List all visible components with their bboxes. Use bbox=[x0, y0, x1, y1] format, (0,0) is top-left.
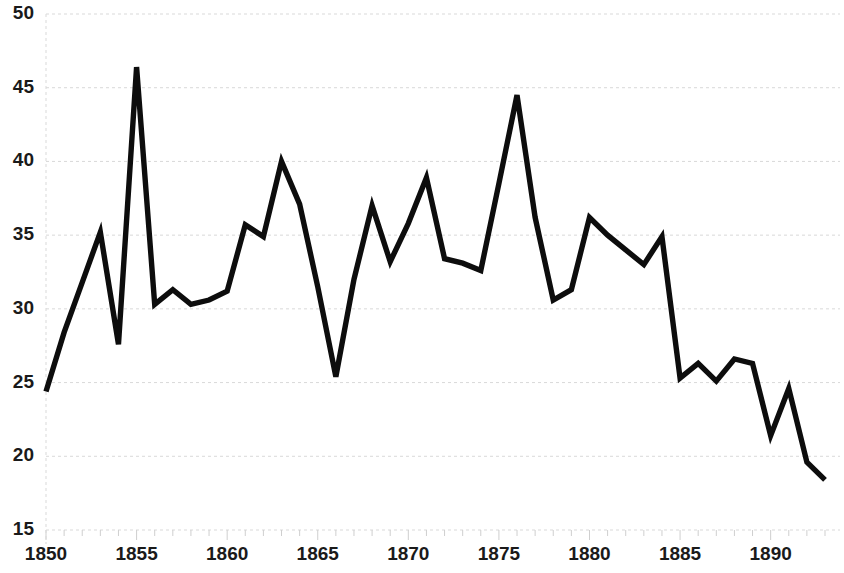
x-tick-label: 1890 bbox=[750, 543, 792, 564]
x-tick-label: 1850 bbox=[25, 543, 67, 564]
y-tick-label: 50 bbox=[13, 2, 34, 23]
y-tick-label: 45 bbox=[13, 76, 35, 97]
y-tick-label: 30 bbox=[13, 297, 34, 318]
x-tick-label: 1885 bbox=[659, 543, 702, 564]
gridlines bbox=[46, 14, 840, 530]
data-series bbox=[46, 67, 825, 480]
chart-container: 1520253035404550 18501855186018651870187… bbox=[0, 0, 844, 573]
x-tick-label: 1860 bbox=[206, 543, 248, 564]
x-tick-label: 1880 bbox=[568, 543, 610, 564]
y-tick-label: 20 bbox=[13, 444, 34, 465]
x-tick-label: 1855 bbox=[115, 543, 158, 564]
line-chart: 1520253035404550 18501855186018651870187… bbox=[0, 0, 844, 573]
x-tick-label: 1875 bbox=[478, 543, 521, 564]
y-tick-label: 15 bbox=[13, 518, 35, 539]
y-tick-label: 35 bbox=[13, 223, 35, 244]
x-minor-ticks bbox=[46, 530, 825, 540]
y-axis-tick-labels: 1520253035404550 bbox=[13, 2, 35, 539]
series-line bbox=[46, 67, 825, 480]
y-tick-label: 40 bbox=[13, 149, 34, 170]
x-tick-label: 1865 bbox=[297, 543, 340, 564]
x-tick-label: 1870 bbox=[387, 543, 429, 564]
y-tick-label: 25 bbox=[13, 371, 35, 392]
x-axis-tick-labels: 185018551860186518701875188018851890 bbox=[25, 543, 792, 564]
